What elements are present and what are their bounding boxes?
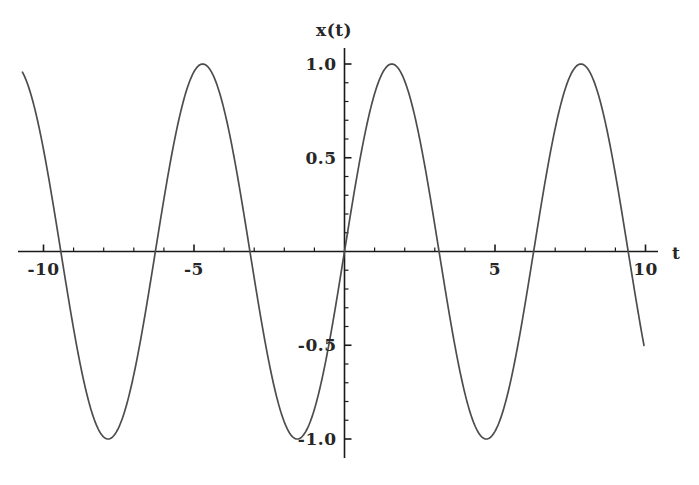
x-tick-label: 5 xyxy=(465,261,525,278)
y-tick-label: -1.0 xyxy=(271,431,337,448)
y-axis-title: x(t) xyxy=(316,22,352,39)
y-tick-label: -0.5 xyxy=(271,337,337,354)
plot-canvas xyxy=(0,0,699,485)
x-tick-label: -5 xyxy=(164,261,224,278)
axes-group xyxy=(18,48,658,458)
x-tick-label: -10 xyxy=(14,261,74,278)
y-tick-label: 0.5 xyxy=(271,150,337,167)
y-tick-label: 1.0 xyxy=(271,56,337,73)
x-axis-title: t xyxy=(672,245,680,262)
chart-figure: -10-55101.00.5-0.5-1.0 x(t) t xyxy=(0,0,699,485)
x-tick-label: 10 xyxy=(616,261,676,278)
